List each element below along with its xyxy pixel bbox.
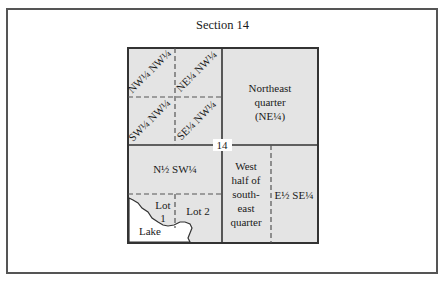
label-n-half-sw: N½ SW¼	[153, 163, 197, 175]
label-w-half-se-line5: quarter	[230, 216, 261, 228]
label-ne-line1: Northeast	[249, 82, 292, 94]
label-lot2: Lot 2	[186, 205, 210, 217]
section-diagram: NW¼ NW¼ NE¼ NW¼ SW¼ NW¼ SE¼ NW¼ Northeas…	[0, 0, 445, 281]
label-lot1-line1: Lot	[155, 199, 170, 211]
section-number: 14	[217, 139, 229, 151]
label-lot1-line2: 1	[160, 212, 166, 224]
label-w-half-se-line2: half of	[231, 174, 260, 186]
label-ne-line3: (NE¼)	[255, 110, 286, 123]
label-ne-line2: quarter	[254, 96, 285, 108]
label-w-half-se-line4: east	[237, 202, 254, 214]
label-w-half-se-line3: south-	[232, 188, 260, 200]
label-lake: Lake	[139, 225, 161, 237]
label-e-half-se: E½ SE¼	[275, 189, 314, 201]
label-w-half-se-line1: West	[235, 160, 257, 172]
